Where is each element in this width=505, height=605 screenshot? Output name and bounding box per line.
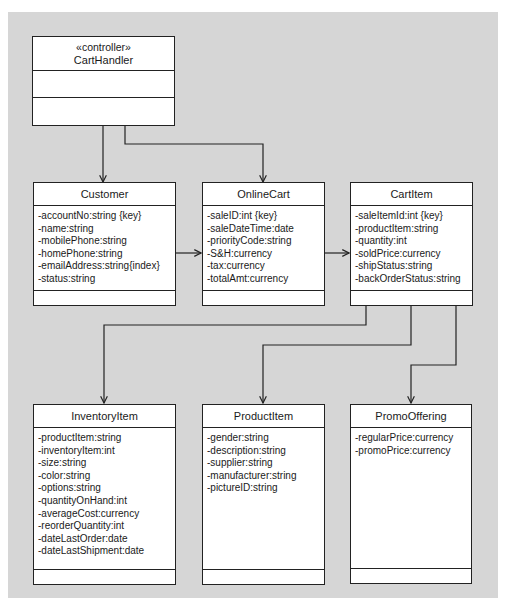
class-inventoryitem[interactable]: InventoryItem -productItem:string -inven… bbox=[33, 404, 176, 585]
attribute: -saleItemId:int {key} bbox=[355, 210, 472, 223]
attribute: -tax:currency bbox=[207, 260, 324, 273]
operations-compartment bbox=[203, 291, 324, 305]
attribute: -dateLastOrder:date bbox=[38, 533, 175, 546]
class-carthandler[interactable]: «controller» CartHandler bbox=[32, 36, 175, 126]
class-title: InventoryItem bbox=[34, 410, 175, 423]
attribute: -soldPrice:currency bbox=[355, 248, 472, 261]
attribute: -shipStatus:string bbox=[355, 260, 472, 273]
attributes-compartment: -productItem:string -inventoryItem:int -… bbox=[34, 428, 175, 570]
attribute: -supplier:string bbox=[207, 457, 324, 470]
attribute: -saleDateTime:date bbox=[207, 223, 324, 236]
attributes-compartment: -regularPrice:currency -promoPrice:curre… bbox=[351, 428, 471, 569]
class-name: ProductItem bbox=[203, 405, 324, 428]
attribute: -size:string bbox=[38, 457, 175, 470]
attribute: -inventoryItem:int bbox=[38, 445, 175, 458]
attribute: -status:string bbox=[38, 273, 175, 286]
class-customer[interactable]: Customer -accountNo:string {key} -name:s… bbox=[33, 182, 176, 306]
operations-compartment bbox=[33, 98, 174, 125]
attribute: -productItem:string bbox=[355, 223, 472, 236]
operations-compartment bbox=[34, 291, 175, 305]
attribute: -backOrderStatus:string bbox=[355, 273, 472, 286]
attribute: -promoPrice:currency bbox=[355, 445, 471, 458]
operations-compartment bbox=[203, 570, 324, 584]
attribute: -mobilePhone:string bbox=[38, 235, 175, 248]
attribute: -color:string bbox=[38, 470, 175, 483]
attribute: -pictureID:string bbox=[207, 482, 324, 495]
class-promooffering[interactable]: PromoOffering -regularPrice:currency -pr… bbox=[350, 404, 472, 584]
attribute: -description:string bbox=[207, 445, 324, 458]
class-name: «controller» CartHandler bbox=[33, 37, 174, 71]
attribute: -emailAddress:string{index} bbox=[38, 260, 175, 273]
attributes-compartment: -saleItemId:int {key} -productItem:strin… bbox=[351, 206, 472, 291]
class-name: OnlineCart bbox=[203, 183, 324, 206]
attributes-compartment bbox=[33, 71, 174, 98]
attributes-compartment: -saleID:int {key} -saleDateTime:date -pr… bbox=[203, 206, 324, 291]
attribute: -homePhone:string bbox=[38, 248, 175, 261]
attribute: -S&H:currency bbox=[207, 248, 324, 261]
class-name: InventoryItem bbox=[34, 405, 175, 428]
attribute: -saleID:int {key} bbox=[207, 210, 324, 223]
class-title: OnlineCart bbox=[203, 188, 324, 201]
class-cartitem[interactable]: CartItem -saleItemId:int {key} -productI… bbox=[350, 182, 473, 306]
attribute: -quantityOnHand:int bbox=[38, 495, 175, 508]
class-name: CartItem bbox=[351, 183, 472, 206]
operations-compartment bbox=[34, 570, 175, 584]
class-name: Customer bbox=[34, 183, 175, 206]
attribute: -totalAmt:currency bbox=[207, 273, 324, 286]
attribute: -gender:string bbox=[207, 432, 324, 445]
attribute: -averageCost:currency bbox=[38, 508, 175, 521]
class-onlinecart[interactable]: OnlineCart -saleID:int {key} -saleDateTi… bbox=[202, 182, 325, 306]
attribute: -quantity:int bbox=[355, 235, 472, 248]
attributes-compartment: -accountNo:string {key} -name:string -mo… bbox=[34, 206, 175, 291]
class-productitem[interactable]: ProductItem -gender:string -description:… bbox=[202, 404, 325, 585]
attribute: -accountNo:string {key} bbox=[38, 210, 175, 223]
attribute: -regularPrice:currency bbox=[355, 432, 471, 445]
attribute: -reorderQuantity:int bbox=[38, 520, 175, 533]
class-title: ProductItem bbox=[203, 410, 324, 423]
attribute: -manufacturer:string bbox=[207, 470, 324, 483]
class-title: PromoOffering bbox=[351, 410, 471, 423]
attributes-compartment: -gender:string -description:string -supp… bbox=[203, 428, 324, 570]
attribute: -priorityCode:string bbox=[207, 235, 324, 248]
class-name: PromoOffering bbox=[351, 405, 471, 428]
attribute: -productItem:string bbox=[38, 432, 175, 445]
stereotype: «controller» bbox=[33, 41, 174, 54]
attribute: -options:string bbox=[38, 482, 175, 495]
class-title: CartHandler bbox=[33, 54, 174, 67]
attribute: -name:string bbox=[38, 223, 175, 236]
class-title: CartItem bbox=[351, 188, 472, 201]
class-title: Customer bbox=[34, 188, 175, 201]
operations-compartment bbox=[351, 569, 471, 583]
attribute: -dateLastShipment:date bbox=[38, 545, 175, 558]
operations-compartment bbox=[351, 291, 472, 305]
